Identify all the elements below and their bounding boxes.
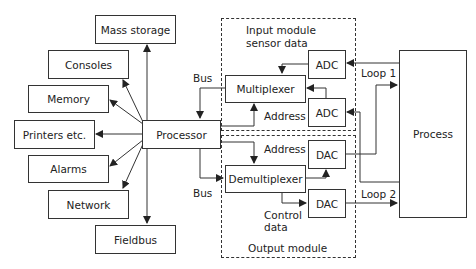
input-address-label: Address [264, 110, 306, 122]
printers-label: Printers etc. [23, 129, 86, 141]
consoles-label: Consoles [65, 59, 112, 71]
loop2-label: Loop 2 [361, 188, 396, 200]
process-label: Process [413, 128, 453, 140]
bus-label-top: Bus [193, 72, 212, 84]
memory-label: Memory [47, 93, 90, 105]
dac-box-1: DAC [308, 140, 346, 169]
processor-label: Processor [156, 129, 207, 141]
demultiplexer-label: Demultiplexer [229, 173, 303, 185]
network-box: Network [48, 190, 129, 219]
adc-label-2: ADC [316, 107, 339, 119]
printers-box: Printers etc. [14, 120, 95, 149]
memory-box: Memory [28, 85, 109, 113]
process-box: Process [399, 50, 467, 218]
input-module-subtitle: sensor data [246, 37, 308, 49]
output-address-label: Address [264, 143, 306, 155]
adc-label-1: ADC [316, 59, 339, 71]
mass-storage-box: Mass storage [95, 15, 176, 44]
processor-box: Processor [142, 120, 221, 149]
consoles-box: Consoles [48, 50, 129, 79]
demultiplexer-box: Demultiplexer [225, 165, 306, 193]
dac-box-2: DAC [308, 189, 346, 218]
control-data-label-1: Control [264, 209, 302, 221]
output-module-title: Output module [248, 242, 327, 254]
multiplexer-label: Multiplexer [236, 83, 294, 95]
dac-label-2: DAC [316, 198, 338, 210]
control-data-label-2: data [264, 221, 288, 233]
adc-box-1: ADC [308, 50, 346, 79]
dac-label-1: DAC [316, 149, 338, 161]
input-module-title: Input module [246, 24, 316, 36]
adc-box-2: ADC [308, 98, 346, 127]
bus-label-bottom: Bus [193, 187, 212, 199]
multiplexer-box: Multiplexer [225, 75, 306, 103]
mass-storage-label: Mass storage [101, 24, 171, 36]
fieldbus-label: Fieldbus [114, 234, 157, 246]
alarms-label: Alarms [50, 163, 86, 175]
alarms-box: Alarms [28, 155, 109, 183]
fieldbus-box: Fieldbus [95, 225, 176, 254]
loop1-label: Loop 1 [361, 67, 396, 79]
network-label: Network [67, 199, 111, 211]
